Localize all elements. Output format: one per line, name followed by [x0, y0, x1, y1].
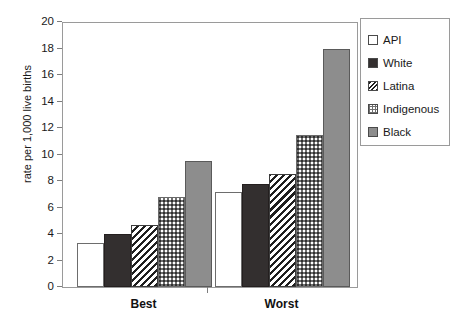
x-tick-label-worst: Worst [237, 297, 327, 311]
bar-worst-indigenous [296, 135, 323, 287]
bar-worst-api [215, 192, 242, 287]
bar-group-worst [215, 21, 350, 287]
legend-item-indigenous[interactable]: Indigenous [362, 97, 450, 120]
y-tick-label: 8 [48, 173, 54, 188]
x-tick-label-best: Best [99, 297, 189, 311]
legend-label: Latina [383, 80, 414, 92]
y-tick-label: 0 [48, 279, 54, 294]
bar-chart-figure: 02468101214161820 rate per 1,000 live bi… [0, 0, 450, 321]
legend-label: API [383, 34, 402, 46]
bar-worst-white [242, 184, 269, 287]
legend-swatch-latina-icon [368, 81, 378, 91]
legend-swatch-indigenous-icon [368, 104, 378, 114]
y-axis-label: rate per 1,000 live births [21, 19, 33, 229]
bar-best-api [77, 243, 104, 287]
y-tick-label: 18 [41, 41, 54, 56]
y-tick-label: 2 [48, 253, 54, 268]
x-tick-mark-separator [207, 287, 208, 293]
legend-item-latina[interactable]: Latina [362, 74, 450, 97]
y-tick-label: 4 [48, 226, 54, 241]
y-tick-label: 10 [41, 147, 54, 162]
legend-swatch-white-icon [368, 58, 378, 68]
bar-best-white [104, 234, 131, 287]
bar-best-indigenous [158, 197, 185, 287]
bar-best-latina [131, 225, 158, 287]
legend-item-black[interactable]: Black [362, 120, 450, 143]
legend-label: White [383, 57, 412, 69]
bar-worst-latina [269, 174, 296, 287]
legend-label: Indigenous [383, 103, 439, 115]
legend: APIWhiteLatinaIndigenousBlack [362, 22, 450, 143]
plot-area [62, 22, 358, 288]
y-tick-label: 12 [41, 120, 54, 135]
bar-best-black [185, 161, 212, 287]
legend-label: Black [383, 126, 411, 138]
legend-swatch-api-icon [368, 35, 378, 45]
legend-item-white[interactable]: White [362, 51, 450, 74]
y-tick-label: 6 [48, 200, 54, 215]
bar-worst-black [323, 49, 350, 288]
y-tick-label: 16 [41, 67, 54, 82]
bar-group-best [77, 21, 212, 287]
legend-item-api[interactable]: API [362, 28, 450, 51]
legend-swatch-black-icon [368, 127, 378, 137]
y-tick-label: 20 [41, 14, 54, 29]
y-tick-label: 14 [41, 94, 54, 109]
